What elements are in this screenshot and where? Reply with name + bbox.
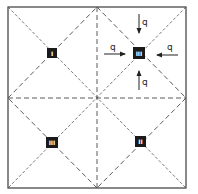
marker-label: III (49, 139, 56, 146)
marker-top-left: I (47, 48, 57, 58)
marker-bottom-left: III (46, 137, 58, 148)
load-label-right: q (167, 42, 173, 52)
yield-line-diagram: q q q q I III III II (0, 0, 198, 194)
load-label-top: q (142, 17, 148, 27)
load-label-left: q (110, 42, 116, 52)
marker-label: III (136, 50, 143, 57)
marker-label: I (51, 50, 53, 57)
diagram-canvas: q q q q I III III II (0, 0, 198, 194)
load-label-bottom: q (142, 77, 148, 87)
marker-bottom-right: II (135, 136, 146, 147)
marker-top-right: III (133, 47, 145, 59)
marker-label: II (138, 138, 142, 145)
